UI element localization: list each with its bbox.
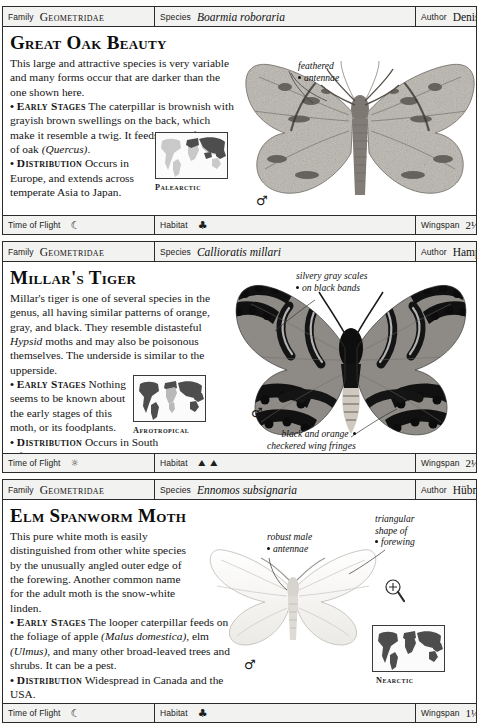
- species-header: Family Geometridae Species Boarmia robor…: [3, 7, 476, 27]
- habitat-label: Habitat: [160, 220, 188, 230]
- species-text-column: Elm Spanworm Moth This pure white moth i…: [10, 504, 232, 701]
- callout-bullet-dot: [296, 286, 299, 289]
- callout-bullet-dot: [353, 432, 356, 435]
- species-panel-great-oak-beauty: Family Geometridae Species Boarmia robor…: [2, 6, 477, 235]
- species-label: Species: [160, 12, 191, 22]
- species-early-stages: • Early Stages Nothing seems to be known…: [10, 377, 128, 434]
- family-cell: Family Geometridae: [3, 7, 155, 26]
- species-label: Species: [160, 247, 191, 257]
- author-label: Author: [421, 12, 447, 22]
- species-value: Boarmia roboraria: [197, 11, 285, 23]
- time-of-flight-label: Time of Flight: [8, 708, 61, 718]
- time-of-flight-label: Time of Flight: [8, 458, 61, 468]
- callout-line-1: feathered: [298, 60, 339, 72]
- callout-bullet-dot: [375, 540, 378, 543]
- wingspan-value: 1¼–1½ in (3–4 cm): [466, 707, 476, 719]
- habitat-icons: ♣: [198, 220, 208, 231]
- biogeographic-realm-label: Palearctic: [155, 183, 201, 192]
- species-value: Ennomos subsignaria: [197, 484, 297, 496]
- species-body: silvery gray scales on black bands black…: [3, 262, 476, 452]
- time-of-flight-icons: ☼: [71, 459, 79, 468]
- habitat-icons: ⛰ ⛰: [198, 459, 218, 468]
- callout-line-2: antennae: [273, 543, 308, 554]
- callout-checkered-wing-fringes: black and orange checkered wing fringes: [267, 428, 356, 451]
- callout-leader-checkered-wing-fringes: [349, 407, 399, 439]
- author-cell: Author Denis & Schiffermüller: [416, 7, 476, 26]
- species-description: Millar's tiger is one of several species…: [10, 291, 215, 377]
- distribution-map-nearctic: [372, 625, 445, 672]
- callout-line-1: black and orange: [281, 428, 348, 439]
- sex-symbol-male: ♂: [251, 405, 263, 420]
- species-description: This pure white moth is easily distingui…: [10, 529, 188, 615]
- species-cell: Species Boarmia roboraria: [155, 7, 416, 26]
- moon-icon: ☾: [71, 708, 81, 719]
- species-cell: Species Ennomos subsignaria: [155, 480, 416, 499]
- wingspan-label: Wingspan: [421, 708, 460, 718]
- species-common-name: Great Oak Beauty: [10, 33, 235, 53]
- callout-silvery-gray-scales: silvery gray scales on black bands: [296, 270, 367, 293]
- callout-leader-robust-male-antennae: [265, 556, 297, 592]
- author-cell: Author Hampson: [416, 242, 476, 261]
- family-value: Geometridae: [40, 11, 105, 23]
- biogeographic-realm-label: Afrotropical: [133, 426, 189, 435]
- family-value: Geometridae: [40, 484, 105, 496]
- time-of-flight-label: Time of Flight: [8, 220, 61, 230]
- callout-line-1: robust male: [267, 531, 312, 543]
- author-cell: Author Hübner: [416, 480, 476, 499]
- wingspan-value: 2½–2¾ in (6–7 cm): [466, 219, 476, 231]
- family-cell: Family Geometridae: [3, 242, 155, 261]
- species-common-name: Elm Spanworm Moth: [10, 506, 232, 526]
- callout-line-2: on black bands: [302, 282, 360, 293]
- species-value: Callioratis millari: [197, 246, 281, 258]
- broadleaf-tree-icon: ♣: [198, 220, 208, 231]
- species-description: This large and attractive species is ver…: [10, 56, 235, 99]
- moon-icon: ☾: [71, 220, 81, 231]
- sun-icon: ☼: [71, 459, 79, 468]
- habitat-label: Habitat: [160, 708, 188, 718]
- species-body: robust male antennae triangular shape of…: [3, 500, 476, 702]
- distribution-map-palearctic: [155, 132, 228, 179]
- habitat-cell: Habitat ⛰ ⛰: [155, 454, 416, 472]
- callout-line-2: antennae: [304, 72, 339, 83]
- habitat-label: Habitat: [160, 458, 188, 468]
- time-of-flight-cell: Time of Flight ☼: [3, 454, 155, 472]
- species-early-stages: • Early Stages The looper caterpillar fe…: [10, 615, 232, 672]
- wingspan-value: 2⅛–2⅜ in (5.5–6 cm): [466, 457, 476, 469]
- author-value: Denis & Schiffermüller: [453, 11, 476, 23]
- wingspan-label: Wingspan: [421, 458, 460, 468]
- field-guide-page: Family Geometridae Species Boarmia robor…: [0, 0, 479, 727]
- species-footer: Time of Flight ☼ Habitat ⛰ ⛰ Wingspan 2⅛…: [3, 453, 476, 472]
- family-cell: Family Geometridae: [3, 480, 155, 499]
- species-footer: Time of Flight ☾ Habitat ♣ Wingspan 1¼–1…: [3, 703, 476, 722]
- callout-leader-triangular-forewing: [347, 548, 389, 576]
- callout-robust-male-antennae: robust male antennae: [267, 531, 312, 554]
- author-value: Hampson: [453, 246, 476, 258]
- species-distribution: • Distribution Occurs in Europe, and ext…: [10, 156, 160, 199]
- author-label: Author: [421, 485, 447, 495]
- habitat-icons: ♣: [198, 708, 208, 719]
- species-panel-elm-spanworm-moth: Family Geometridae Species Ennomos subsi…: [2, 479, 477, 723]
- distribution-map-afrotropical: [133, 375, 206, 422]
- species-body: feathered antennae ♂ Great Oak Beauty Th…: [3, 27, 476, 214]
- species-footer: Time of Flight ☾ Habitat ♣ Wingspan 2½–2…: [3, 215, 476, 234]
- scrub-icon: ⛰: [198, 459, 206, 468]
- family-label: Family: [8, 485, 34, 495]
- habitat-cell: Habitat ♣: [155, 704, 416, 722]
- biogeographic-realm-label: Nearctic: [376, 676, 414, 685]
- wingspan-cell: Wingspan 1¼–1½ in (3–4 cm): [416, 704, 476, 722]
- species-cell: Species Callioratis millari: [155, 242, 416, 261]
- broadleaf-tree-icon: ♣: [198, 708, 208, 719]
- callout-feathered-antennae: feathered antennae: [298, 60, 339, 83]
- wingspan-label: Wingspan: [421, 220, 460, 230]
- callout-leader-silvery-gray-scales: [271, 297, 319, 333]
- callout-line-1: triangular: [375, 513, 415, 525]
- callout-line-1: silvery gray scales: [296, 270, 367, 282]
- callout-bullet-dot: [267, 547, 270, 550]
- callout-line-3: forewing: [381, 536, 415, 547]
- wingspan-cell: Wingspan 2⅛–2⅜ in (5.5–6 cm): [416, 454, 476, 472]
- species-label: Species: [160, 485, 191, 495]
- species-header: Family Geometridae Species Ennomos subsi…: [3, 480, 476, 500]
- species-panel-millars-tiger: Family Geometridae Species Callioratis m…: [2, 241, 477, 473]
- habitat-cell: Habitat ♣: [155, 216, 416, 234]
- wingspan-cell: Wingspan 2½–2¾ in (6–7 cm): [416, 216, 476, 234]
